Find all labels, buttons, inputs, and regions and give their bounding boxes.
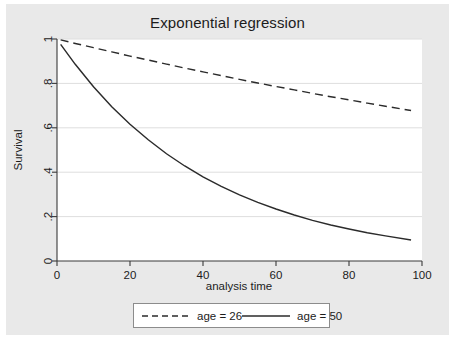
legend-entry-age-26: age = 26 (134, 304, 242, 327)
svg-text:80: 80 (343, 269, 356, 281)
x-axis-title: analysis time (206, 280, 272, 292)
svg-text:0: 0 (42, 258, 54, 264)
legend-label-age-26: age = 26 (197, 310, 242, 322)
legend-key-dashed-icon (142, 310, 190, 322)
legend-entry-age-50: age = 50 (242, 304, 342, 327)
svg-text:.4: .4 (42, 167, 54, 177)
plot-background (57, 39, 422, 261)
svg-text:0: 0 (54, 269, 60, 281)
y-axis-ticks: 0.2.4.6.81 (42, 36, 57, 264)
x-axis-ticks: 020406080100 (54, 261, 432, 281)
svg-text:20: 20 (124, 269, 137, 281)
legend: age = 26 age = 50 (133, 303, 330, 328)
svg-text:.2: .2 (42, 212, 54, 222)
svg-text:100: 100 (412, 269, 431, 281)
chart-canvas: Exponential regression 0.2.4.6.81 020406… (0, 0, 455, 348)
plot-area-wrapper: 0.2.4.6.81 020406080100 Survival analysi… (0, 0, 455, 348)
svg-text:1: 1 (42, 36, 54, 42)
plot-svg: 0.2.4.6.81 020406080100 Survival analysi… (0, 0, 455, 348)
svg-text:.6: .6 (42, 123, 54, 133)
y-axis-title: Survival (12, 130, 24, 171)
legend-label-age-50: age = 50 (297, 310, 342, 322)
svg-text:.8: .8 (42, 79, 54, 89)
legend-key-solid-icon (242, 310, 290, 322)
